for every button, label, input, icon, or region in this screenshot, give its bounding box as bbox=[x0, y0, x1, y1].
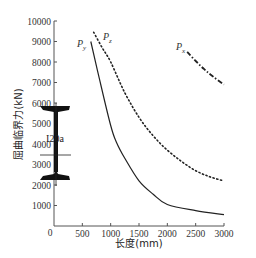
series-py-line bbox=[91, 42, 224, 215]
y-tick-label: 7000 bbox=[32, 78, 51, 88]
series-label-py: Py bbox=[76, 38, 87, 52]
y-tick-label: 2000 bbox=[32, 181, 51, 191]
series-label-px: Px bbox=[175, 41, 186, 55]
x-axis-ticks: 50010001500200025003000 bbox=[75, 223, 234, 239]
x-tick-label: 2500 bbox=[186, 229, 205, 239]
x-tick-label: 500 bbox=[75, 229, 90, 239]
y-tick-label: 10000 bbox=[27, 17, 51, 27]
x-tick-label: 3000 bbox=[215, 229, 234, 239]
series-label-pz: Pz bbox=[102, 31, 112, 45]
y-tick-label: 9000 bbox=[32, 37, 51, 47]
series-layer bbox=[91, 32, 224, 214]
series-pz-line bbox=[94, 32, 224, 181]
x-axis-title: 长度(mm) bbox=[115, 237, 162, 249]
y-tick-label: 3000 bbox=[32, 160, 51, 170]
y-axis-title: 屈曲临界力(kN) bbox=[12, 88, 24, 159]
buckling-chart: 1000200030004000500060007000800090001000… bbox=[0, 0, 256, 258]
y-tick-label: 5000 bbox=[32, 119, 51, 129]
y-tick-label: 1000 bbox=[32, 201, 51, 211]
y-tick-label: 8000 bbox=[32, 58, 51, 68]
section-label: I20a bbox=[46, 133, 64, 144]
series-px-line bbox=[187, 52, 224, 85]
y-axis-ticks: 1000200030004000500060007000800090001000… bbox=[27, 17, 57, 212]
origin-label: 0 bbox=[48, 228, 53, 238]
